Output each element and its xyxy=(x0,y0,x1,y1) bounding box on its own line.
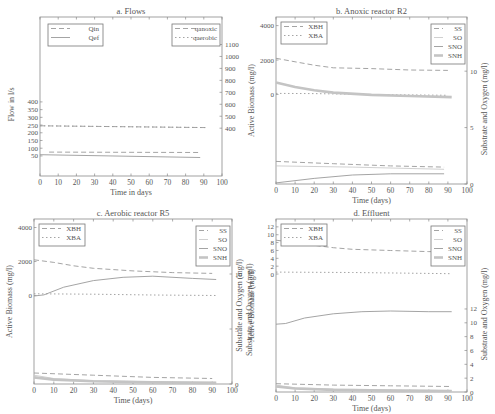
y-tick-label: 4 xyxy=(271,255,275,263)
series-group xyxy=(34,260,216,383)
y-tick-label: 200 xyxy=(28,129,39,137)
y-tick-label-right: 500 xyxy=(225,113,236,121)
y-tick-label: 2000 xyxy=(260,57,275,65)
x-tick-label: 10 xyxy=(54,178,62,187)
x-tick-label: 70 xyxy=(169,386,177,395)
y-tick-label-right: 5 xyxy=(470,124,474,132)
legend-legend_right: qanoxicqaerobic xyxy=(172,24,220,46)
chart-panel-a-flows: a. Flows0102030405060708090100Time in da… xyxy=(7,6,240,197)
y-tick-label: 6 xyxy=(271,247,275,255)
y-tick-label: 4000 xyxy=(18,224,33,232)
legend-legend_right: SSSOSNOSNH xyxy=(431,24,465,64)
legend-legend_right: SSSOSNOSNH xyxy=(431,226,465,266)
figure-canvas: a. Flows0102030405060708090100Time in da… xyxy=(0,0,495,414)
legend-label: Qin xyxy=(89,25,100,33)
legend-legend_right: SSSOSNOSNH xyxy=(196,226,230,266)
x-tick-label: 80 xyxy=(425,186,433,195)
y-tick-label-right: 600 xyxy=(225,101,236,109)
x-tick-label: 60 xyxy=(145,178,153,187)
legend-label: SNH xyxy=(448,254,462,262)
y-axis-label-left: Active Biomass (mg/l) xyxy=(5,265,14,338)
y-tick-label-right: 800 xyxy=(225,77,236,85)
series-xba xyxy=(34,294,216,296)
x-tick-label: 50 xyxy=(129,386,137,395)
y-tick-label: 2 xyxy=(271,263,275,271)
y-tick-label-right: 12 xyxy=(470,305,478,313)
chart-title: c. Aerobic reactor R5 xyxy=(97,208,170,218)
legend-label: SNO xyxy=(448,43,462,51)
x-tick-label: 10 xyxy=(291,186,299,195)
x-axis-label: Time (days) xyxy=(352,404,391,413)
y-tick-label: 10 xyxy=(267,231,275,239)
x-tick-label: 70 xyxy=(164,178,172,187)
legend-label: SNH xyxy=(448,52,462,60)
legend-label: SNO xyxy=(448,245,462,253)
series-snh xyxy=(276,387,452,392)
x-tick-label: 0 xyxy=(274,394,278,403)
chart-title: b. Anoxic reactor R2 xyxy=(336,6,407,16)
y-tick-label: 400 xyxy=(28,98,39,106)
y-tick-label-right: 6 xyxy=(470,347,474,355)
y-tick-label-right: 900 xyxy=(225,65,236,73)
y-tick-label: 2000 xyxy=(18,258,33,266)
x-tick-label: 0 xyxy=(38,178,42,187)
series-group xyxy=(276,240,452,391)
y-axis-right: 0510 xyxy=(465,68,478,189)
legend-label: qanoxic xyxy=(195,25,217,33)
legend-label: SNO xyxy=(213,245,227,253)
x-tick-label: 50 xyxy=(368,186,376,195)
x-tick-label: 40 xyxy=(109,178,117,187)
y-axis-label-right: Substrate and Oxygen (mg/l) xyxy=(480,267,489,360)
y-tick-label: 0 xyxy=(29,292,33,300)
y-tick-label-right: 10 xyxy=(470,319,478,327)
legend-legend_left: XBHXBA xyxy=(281,224,327,246)
x-tick-label: 80 xyxy=(425,394,433,403)
y-tick-label-right: 4 xyxy=(470,361,474,369)
y-axis-right: 024681012 xyxy=(465,305,478,396)
y-axis-label-left: Active Biomass (mg/l) xyxy=(247,269,256,342)
x-tick-label: 30 xyxy=(330,186,338,195)
chart-title: a. Flows xyxy=(117,6,146,16)
x-axis-label: Time in days xyxy=(110,188,152,197)
x-tick-label: 90 xyxy=(208,386,216,395)
series-sno xyxy=(276,311,452,324)
series-sno xyxy=(34,276,216,296)
legend-label: qaerobic xyxy=(193,34,217,42)
y-tick-label: 8 xyxy=(271,239,275,247)
x-tick-label: 30 xyxy=(91,178,99,187)
legend-label: SO xyxy=(453,34,462,42)
x-tick-label: 40 xyxy=(349,186,357,195)
legend-label: XBA xyxy=(308,32,323,40)
x-tick-label: 80 xyxy=(182,178,190,187)
y-axis-label-right: Substrate and Oxygen (mg/l) xyxy=(480,62,489,155)
x-tick-label: 10 xyxy=(50,386,58,395)
y-tick-label-right: 1000 xyxy=(225,53,240,61)
y-tick-label: 250 xyxy=(28,122,39,130)
legend-label: XBH xyxy=(66,225,81,233)
y-tick-label: 300 xyxy=(28,114,39,122)
y-tick-label: 50 xyxy=(31,152,39,160)
series-sno xyxy=(276,174,444,183)
x-tick-label: 20 xyxy=(70,386,78,395)
x-tick-label: 80 xyxy=(189,386,197,395)
y-axis-right: 40050060070080090010001100 xyxy=(220,41,240,133)
y-tick-label: 12 xyxy=(267,223,275,231)
series-xba xyxy=(276,272,452,274)
legend-legend_left: XBHXBA xyxy=(281,22,327,44)
x-tick-label: 60 xyxy=(387,186,395,195)
series-group xyxy=(40,126,207,158)
y-tick-label-right: 0 xyxy=(470,389,474,397)
y-axis-label-left: Active Biomass (mg/l) xyxy=(247,64,256,137)
y-axis-label-outer: Substrate and Oxygen (mg/l) xyxy=(235,259,244,352)
y-tick-label-right: 2 xyxy=(470,375,474,383)
y-tick-label-right: 400 xyxy=(225,125,236,133)
x-tick-label: 20 xyxy=(73,178,81,187)
legend-label: SNH xyxy=(213,254,227,262)
y-tick-label-right: 0 xyxy=(235,381,239,389)
legend-label: XBH xyxy=(308,225,323,233)
legend-label: Qef xyxy=(89,34,100,42)
y-tick-label-right: 8 xyxy=(470,333,474,341)
series-so xyxy=(276,166,444,169)
chart-panel-b-anoxic-reactor: b. Anoxic reactor R201020304050607080901… xyxy=(247,6,489,205)
legend-label: SS xyxy=(454,227,462,235)
